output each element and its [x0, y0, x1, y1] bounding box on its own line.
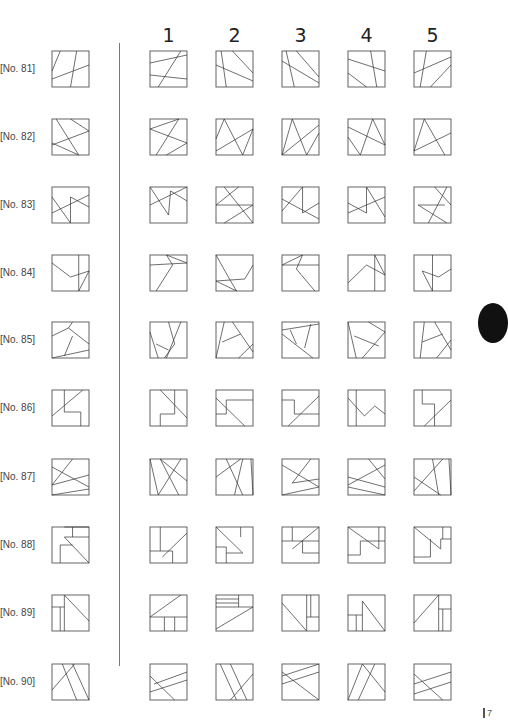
answer-option-1[interactable]: [150, 187, 187, 223]
answer-option-4[interactable]: [348, 119, 385, 155]
question-figure: [52, 119, 89, 155]
column-divider: [119, 43, 120, 666]
problem-label: [No. 82]: [0, 131, 48, 142]
answer-option-3[interactable]: [282, 459, 319, 495]
answer-option-5[interactable]: [414, 119, 451, 155]
answer-option-1[interactable]: [150, 390, 187, 426]
line-figure-icon: [414, 255, 451, 291]
line-figure-icon: [282, 255, 319, 291]
answer-option-3[interactable]: [282, 255, 319, 291]
answer-option-4[interactable]: [348, 51, 385, 87]
question-figure: [52, 390, 89, 426]
column-header-2: 2: [216, 24, 253, 46]
answer-option-4[interactable]: [348, 187, 385, 223]
answer-option-5[interactable]: [414, 51, 451, 87]
answer-option-2[interactable]: [216, 51, 253, 87]
question-figure: [52, 664, 89, 700]
answer-option-5[interactable]: [414, 595, 451, 631]
line-figure-icon: [150, 51, 187, 87]
problem-label: [No. 85]: [0, 334, 48, 345]
answer-option-2[interactable]: [216, 390, 253, 426]
line-figure-icon: [52, 527, 89, 563]
line-figure-icon: [216, 390, 253, 426]
answer-option-5[interactable]: [414, 459, 451, 495]
line-figure-icon: [282, 51, 319, 87]
answer-option-2[interactable]: [216, 119, 253, 155]
answer-option-4[interactable]: [348, 255, 385, 291]
answer-option-2[interactable]: [216, 187, 253, 223]
problem-label: [No. 83]: [0, 199, 48, 210]
line-figure-icon: [52, 255, 89, 291]
column-header-3: 3: [282, 24, 319, 46]
line-figure-icon: [52, 459, 89, 495]
chapter-tab-marker: [478, 303, 508, 343]
answer-option-1[interactable]: [150, 459, 187, 495]
page-number: 7: [483, 708, 492, 718]
answer-option-4[interactable]: [348, 664, 385, 700]
column-header-4: 4: [348, 24, 385, 46]
line-figure-icon: [348, 390, 385, 426]
question-figure: [52, 255, 89, 291]
answer-option-5[interactable]: [414, 527, 451, 563]
line-figure-icon: [348, 187, 385, 223]
answer-option-2[interactable]: [216, 527, 253, 563]
answer-option-4[interactable]: [348, 595, 385, 631]
line-figure-icon: [52, 119, 89, 155]
answer-option-5[interactable]: [414, 255, 451, 291]
answer-option-3[interactable]: [282, 322, 319, 358]
line-figure-icon: [150, 459, 187, 495]
answer-option-5[interactable]: [414, 390, 451, 426]
line-figure-icon: [282, 527, 319, 563]
answer-option-4[interactable]: [348, 322, 385, 358]
line-figure-icon: [150, 527, 187, 563]
question-figure: [52, 322, 89, 358]
line-figure-icon: [52, 51, 89, 87]
answer-option-3[interactable]: [282, 187, 319, 223]
line-figure-icon: [282, 322, 319, 358]
answer-option-1[interactable]: [150, 595, 187, 631]
line-figure-icon: [348, 459, 385, 495]
answer-option-3[interactable]: [282, 595, 319, 631]
answer-option-5[interactable]: [414, 322, 451, 358]
problem-label: [No. 86]: [0, 402, 48, 413]
line-figure-icon: [282, 390, 319, 426]
answer-option-2[interactable]: [216, 322, 253, 358]
line-figure-icon: [216, 595, 253, 631]
line-figure-icon: [414, 187, 451, 223]
problem-label: [No. 90]: [0, 676, 48, 687]
answer-option-1[interactable]: [150, 322, 187, 358]
answer-option-5[interactable]: [414, 187, 451, 223]
question-figure: [52, 527, 89, 563]
answer-option-1[interactable]: [150, 664, 187, 700]
question-figure: [52, 459, 89, 495]
answer-option-3[interactable]: [282, 51, 319, 87]
answer-option-1[interactable]: [150, 527, 187, 563]
line-figure-icon: [150, 255, 187, 291]
answer-option-1[interactable]: [150, 255, 187, 291]
line-figure-icon: [414, 119, 451, 155]
answer-option-4[interactable]: [348, 527, 385, 563]
answer-option-2[interactable]: [216, 459, 253, 495]
line-figure-icon: [150, 322, 187, 358]
line-figure-icon: [348, 255, 385, 291]
answer-option-1[interactable]: [150, 119, 187, 155]
answer-option-5[interactable]: [414, 664, 451, 700]
answer-option-1[interactable]: [150, 51, 187, 87]
problem-label: [No. 81]: [0, 63, 48, 74]
answer-option-3[interactable]: [282, 390, 319, 426]
line-figure-icon: [414, 322, 451, 358]
answer-option-2[interactable]: [216, 595, 253, 631]
answer-option-2[interactable]: [216, 664, 253, 700]
line-figure-icon: [150, 390, 187, 426]
question-figure: [52, 187, 89, 223]
answer-option-4[interactable]: [348, 390, 385, 426]
line-figure-icon: [52, 322, 89, 358]
column-header-5: 5: [414, 24, 451, 46]
problem-label: [No. 84]: [0, 267, 48, 278]
answer-option-3[interactable]: [282, 527, 319, 563]
answer-option-2[interactable]: [216, 255, 253, 291]
answer-option-3[interactable]: [282, 664, 319, 700]
line-figure-icon: [348, 664, 385, 700]
answer-option-4[interactable]: [348, 459, 385, 495]
answer-option-3[interactable]: [282, 119, 319, 155]
